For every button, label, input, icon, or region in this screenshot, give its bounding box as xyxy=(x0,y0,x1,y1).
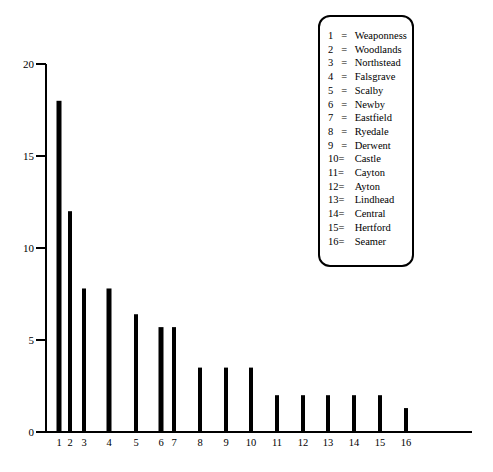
legend-item-label: Hertford xyxy=(352,221,391,235)
legend-item: 7 = Eastfield xyxy=(328,111,412,125)
legend-item: 11= Cayton xyxy=(328,166,412,180)
x-tick-label: 1 xyxy=(56,437,61,448)
bar-9 xyxy=(224,368,228,432)
legend-item: 3 = Northstead xyxy=(328,56,412,70)
legend-item-key: 2 = xyxy=(328,43,352,57)
legend-item-label: Seamer xyxy=(352,235,386,249)
legend-item-label: Northstead xyxy=(352,56,401,70)
legend-item-label: Weaponness xyxy=(352,29,407,43)
legend-item-label: Cayton xyxy=(352,166,385,180)
bar-4 xyxy=(107,288,112,432)
bar-6 xyxy=(159,327,164,432)
legend-item-key: 11= xyxy=(328,166,352,180)
x-tick-labels: 12345678910111213141516 xyxy=(56,437,411,448)
bar-13 xyxy=(326,395,330,432)
legend-item-key: 4 = xyxy=(328,70,352,84)
x-tick-label: 16 xyxy=(401,437,412,448)
legend-item-key: 13= xyxy=(328,193,352,207)
y-tick-label: 15 xyxy=(23,150,35,162)
x-tick-label: 15 xyxy=(375,437,386,448)
bar-16 xyxy=(404,408,408,432)
y-tick-label: 0 xyxy=(29,426,35,438)
legend-item: 16= Seamer xyxy=(328,235,412,249)
bar-3 xyxy=(82,288,86,432)
legend-item-key: 10= xyxy=(328,152,352,166)
legend-item-key: 15= xyxy=(328,221,352,235)
y-tick-label: 10 xyxy=(23,242,35,254)
bar-10 xyxy=(249,368,253,432)
x-tick-label: 2 xyxy=(67,437,72,448)
y-tick-label: 5 xyxy=(29,334,35,346)
legend-item: 14= Central xyxy=(328,207,412,221)
bar-5 xyxy=(134,314,138,432)
legend-item: 10= Castle xyxy=(328,152,412,166)
bar-14 xyxy=(352,395,356,432)
x-tick-label: 8 xyxy=(197,437,202,448)
bar-7 xyxy=(172,327,176,432)
legend-item-label: Lindhead xyxy=(352,193,394,207)
bar-2 xyxy=(68,211,72,432)
bar-chart: 12345678910111213141516 05101520 xyxy=(0,0,493,472)
legend-item-key: 14= xyxy=(328,207,352,221)
legend-item: 4 = Falsgrave xyxy=(328,70,412,84)
legend-item: 9 = Derwent xyxy=(328,139,412,153)
legend-item-key: 5 = xyxy=(328,84,352,98)
legend-item: 2 = Woodlands xyxy=(328,43,412,57)
x-tick-label: 11 xyxy=(272,437,282,448)
y-tick-label: 20 xyxy=(23,58,35,70)
bar-15 xyxy=(378,395,382,432)
legend-item-label: Central xyxy=(352,207,386,221)
bar-1 xyxy=(57,101,62,432)
x-tick-label: 6 xyxy=(158,437,163,448)
legend-item: 6 = Newby xyxy=(328,98,412,112)
x-tick-label: 9 xyxy=(223,437,228,448)
x-tick-label: 10 xyxy=(246,437,257,448)
legend-item-key: 6 = xyxy=(328,98,352,112)
legend: 1 = Weaponness2 = Woodlands3 = Northstea… xyxy=(318,15,414,267)
legend-item-label: Ryedale xyxy=(352,125,389,139)
legend-item: 12= Ayton xyxy=(328,180,412,194)
x-tick-label: 4 xyxy=(106,437,112,448)
legend-item: 15= Hertford xyxy=(328,221,412,235)
x-tick-label: 14 xyxy=(349,437,360,448)
legend-item: 8 = Ryedale xyxy=(328,125,412,139)
x-tick-label: 12 xyxy=(298,437,309,448)
x-tick-label: 3 xyxy=(81,437,86,448)
legend-item-label: Derwent xyxy=(352,139,391,153)
legend-item-label: Eastfield xyxy=(352,111,392,125)
legend-item-key: 12= xyxy=(328,180,352,194)
legend-item-key: 3 = xyxy=(328,56,352,70)
legend-item: 1 = Weaponness xyxy=(328,29,412,43)
x-tick-label: 7 xyxy=(171,437,176,448)
bar-11 xyxy=(275,395,279,432)
y-tick-labels: 05101520 xyxy=(23,58,35,438)
legend-item: 13= Lindhead xyxy=(328,193,412,207)
legend-item-label: Scalby xyxy=(352,84,383,98)
x-tick-label: 5 xyxy=(133,437,138,448)
legend-item-label: Woodlands xyxy=(352,43,402,57)
bar-12 xyxy=(301,395,305,432)
legend-item-label: Falsgrave xyxy=(352,70,395,84)
legend-item-label: Castle xyxy=(352,152,381,166)
x-tick-label: 13 xyxy=(323,437,334,448)
legend-item-label: Ayton xyxy=(352,180,380,194)
legend-item-key: 7 = xyxy=(328,111,352,125)
legend-item-key: 16= xyxy=(328,235,352,249)
legend-item-key: 1 = xyxy=(328,29,352,43)
legend-item-label: Newby xyxy=(352,98,385,112)
legend-item-key: 9 = xyxy=(328,139,352,153)
legend-item: 5 = Scalby xyxy=(328,84,412,98)
bar-8 xyxy=(198,368,202,432)
legend-item-key: 8 = xyxy=(328,125,352,139)
